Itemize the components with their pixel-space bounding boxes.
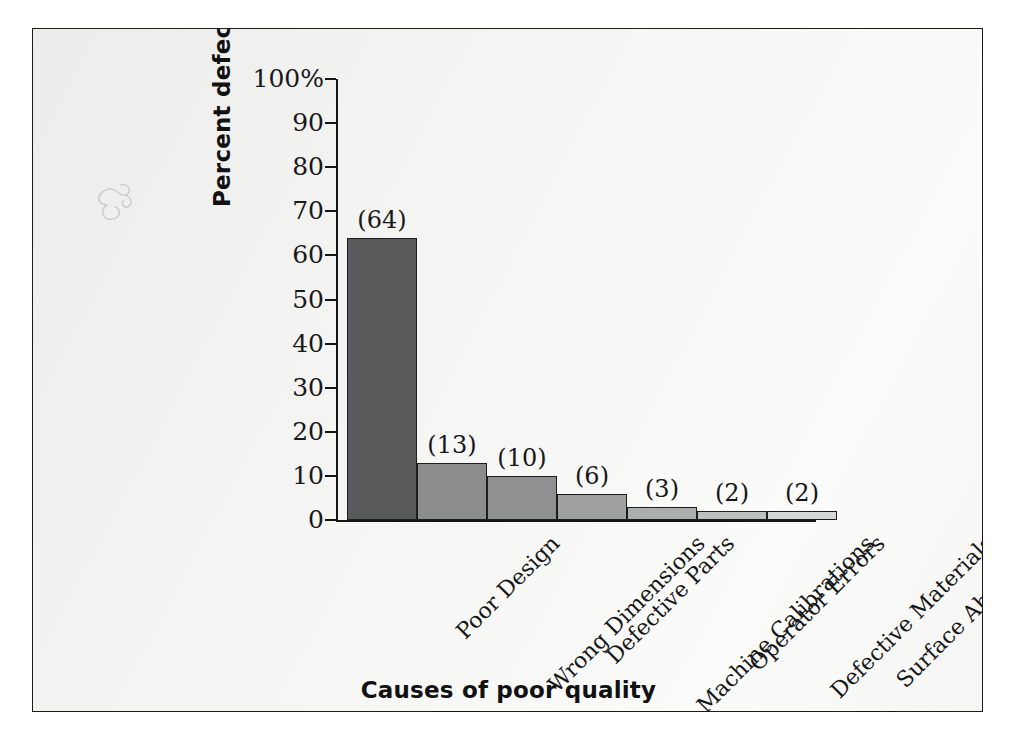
y-axis-tick-label: 90 bbox=[211, 110, 324, 135]
plot-area: 100%9080706050403020100 (64)(13)(10)(6)(… bbox=[336, 79, 816, 521]
x-axis-line bbox=[336, 520, 816, 522]
y-axis-tick-label: 10 bbox=[211, 463, 324, 488]
y-axis-tick-label: 100% bbox=[211, 66, 324, 91]
y-axis-tick-mark bbox=[325, 254, 336, 256]
bar-value-label: (2) bbox=[755, 481, 849, 505]
bar bbox=[697, 511, 767, 520]
y-axis-tick-mark bbox=[325, 299, 336, 301]
y-axis-tick-label: 0 bbox=[211, 507, 324, 532]
x-axis-title: Causes of poor quality bbox=[33, 677, 983, 703]
y-axis-tick-mark bbox=[325, 431, 336, 433]
bar bbox=[347, 238, 417, 520]
y-axis-tick-label: 30 bbox=[211, 375, 324, 400]
x-axis-category-label: Wrong Dimensions bbox=[545, 532, 709, 696]
y-axis-tick-mark bbox=[325, 78, 336, 80]
y-axis-tick-mark bbox=[325, 519, 336, 521]
y-axis-tick-mark bbox=[325, 475, 336, 477]
bar-value-label: (64) bbox=[335, 208, 429, 232]
y-axis-tick-mark bbox=[325, 343, 336, 345]
y-axis-tick-mark bbox=[325, 387, 336, 389]
y-axis-tick-label: 60 bbox=[211, 242, 324, 267]
pencil-scribble-artifact bbox=[85, 171, 165, 233]
x-axis-category-label: Poor Design bbox=[453, 532, 564, 643]
y-axis-tick-label: 50 bbox=[211, 287, 324, 312]
bar bbox=[627, 507, 697, 520]
y-axis-tick-mark bbox=[325, 122, 336, 124]
y-axis-tick-mark bbox=[325, 166, 336, 168]
y-axis-tick-label: 20 bbox=[211, 419, 324, 444]
y-axis-tick-label: 80 bbox=[211, 154, 324, 179]
bar bbox=[417, 463, 487, 520]
y-axis-line bbox=[336, 79, 338, 522]
bar bbox=[767, 511, 837, 520]
y-axis-tick-label: 70 bbox=[211, 198, 324, 223]
figure-frame: Percent defective 100%908070605040302010… bbox=[32, 28, 983, 712]
y-axis-tick-label: 40 bbox=[211, 331, 324, 356]
